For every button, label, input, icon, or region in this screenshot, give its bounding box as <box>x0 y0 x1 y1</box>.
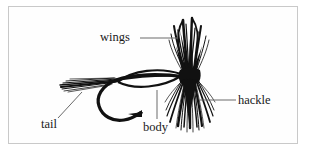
body-shape <box>116 70 183 87</box>
label-wings: wings <box>100 31 130 44</box>
figure-page: wings hackle tail body <box>0 0 309 156</box>
label-tail: tail <box>41 118 57 131</box>
label-hackle: hackle <box>238 94 271 107</box>
wings-shape <box>169 18 209 74</box>
leader-tail <box>58 92 82 118</box>
tail-fibers <box>60 78 119 92</box>
label-body: body <box>143 121 168 134</box>
hook-point-barb <box>128 110 143 117</box>
